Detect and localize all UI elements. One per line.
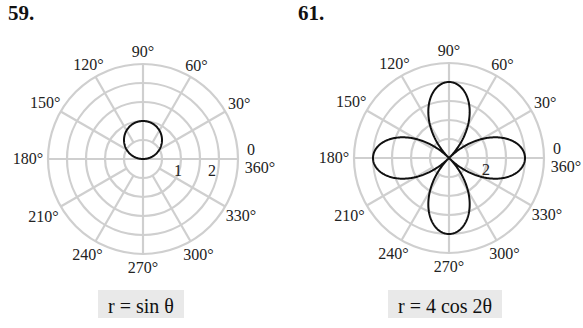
svg-text:300°: 300° bbox=[489, 245, 519, 262]
svg-text:270°: 270° bbox=[128, 259, 158, 276]
equation-caption-59: r = sin θ bbox=[98, 290, 184, 318]
svg-text:150°: 150° bbox=[336, 93, 366, 110]
svg-text:60°: 60° bbox=[185, 57, 207, 74]
polar-plot-59: 0360°30°60°90°120°150°180°210°240°270°30… bbox=[13, 43, 275, 276]
svg-text:30°: 30° bbox=[228, 95, 250, 112]
svg-text:150°: 150° bbox=[30, 94, 60, 111]
svg-text:240°: 240° bbox=[72, 246, 102, 263]
svg-text:120°: 120° bbox=[73, 56, 103, 73]
svg-text:90°: 90° bbox=[438, 42, 460, 59]
polar-plots: 0360°30°60°90°120°150°180°210°240°270°30… bbox=[0, 0, 583, 328]
equation-caption-61: r = 4 cos 2θ bbox=[388, 290, 502, 318]
svg-text:120°: 120° bbox=[379, 55, 409, 72]
svg-text:240°: 240° bbox=[378, 245, 408, 262]
svg-text:210°: 210° bbox=[28, 208, 58, 225]
svg-text:330°: 330° bbox=[226, 207, 256, 224]
svg-text:300°: 300° bbox=[183, 246, 213, 263]
svg-text:30°: 30° bbox=[534, 94, 556, 111]
svg-text:2: 2 bbox=[208, 162, 216, 179]
svg-text:1: 1 bbox=[174, 162, 182, 179]
svg-text:0: 0 bbox=[553, 140, 561, 157]
polar-plot-61: 0360°30°60°90°120°150°180°210°240°270°30… bbox=[319, 42, 581, 275]
svg-text:2: 2 bbox=[482, 161, 490, 178]
svg-text:360°: 360° bbox=[245, 159, 275, 176]
svg-text:210°: 210° bbox=[334, 207, 364, 224]
svg-text:0: 0 bbox=[247, 141, 255, 158]
svg-text:330°: 330° bbox=[532, 206, 562, 223]
svg-text:360°: 360° bbox=[551, 158, 581, 175]
svg-text:180°: 180° bbox=[319, 149, 349, 166]
svg-text:60°: 60° bbox=[491, 56, 513, 73]
svg-text:180°: 180° bbox=[13, 150, 43, 167]
svg-text:270°: 270° bbox=[434, 258, 464, 275]
svg-text:90°: 90° bbox=[132, 43, 154, 60]
